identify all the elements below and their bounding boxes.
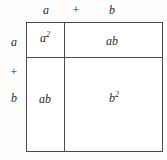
left-label-a: a [8, 36, 20, 48]
cell-label-a-squared: a2 [32, 32, 58, 44]
cell-label-ab-top-right: ab [94, 35, 130, 47]
cell-exponent-b-squared: 2 [115, 90, 119, 99]
top-label-b: b [106, 4, 118, 16]
cell-label-b-squared: b2 [96, 92, 132, 104]
top-label-plus: + [70, 4, 82, 16]
cell-base-ab-bottom-left: ab [39, 92, 51, 106]
top-label-a: a [40, 4, 52, 16]
cell-base-ab-top-right: ab [106, 34, 118, 48]
binomial-square-figure: a + b a + b a2 ab ab b2 [0, 0, 167, 160]
cell-exponent-a-squared: 2 [46, 30, 50, 39]
left-label-b: b [8, 92, 20, 104]
horizontal-divider-line [26, 57, 163, 58]
vertical-divider-line [64, 22, 65, 152]
cell-label-ab-bottom-left: ab [32, 93, 58, 105]
left-label-plus: + [8, 66, 20, 78]
